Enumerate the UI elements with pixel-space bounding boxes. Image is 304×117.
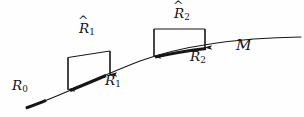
label-r1-subscript: 1 xyxy=(115,79,121,89)
manifold-diagram-svg xyxy=(0,0,304,117)
figure-canvas: R0 R1 R2 ^R1 ^R2 M xyxy=(0,0,304,117)
label-r0-base: R xyxy=(12,77,22,93)
label-rhat2: ^R2 xyxy=(174,7,190,22)
manifold-curve xyxy=(26,37,301,108)
label-r0: R0 xyxy=(12,79,28,94)
label-r2-base: R xyxy=(190,48,200,64)
label-r0-subscript: 0 xyxy=(22,84,28,94)
label-manifold: M xyxy=(236,38,252,53)
hat-accent-icon: ^ xyxy=(78,15,88,27)
bold-segment-r1 xyxy=(70,76,106,91)
label-r1-base: R xyxy=(105,72,115,88)
label-rhat2-subscript: 2 xyxy=(184,12,190,22)
label-manifold-base: M xyxy=(236,36,252,54)
label-r2-subscript: 2 xyxy=(200,55,206,65)
hat-accent-icon: ^ xyxy=(173,0,183,12)
label-rhat1: ^R1 xyxy=(79,22,95,37)
label-rhat2-hatwrap: ^R xyxy=(174,7,184,21)
bold-segment-r0 xyxy=(26,100,46,108)
label-rhat1-hatwrap: ^R xyxy=(79,22,89,36)
label-r2: R2 xyxy=(190,50,206,65)
label-rhat1-subscript: 1 xyxy=(89,27,95,37)
label-r1: R1 xyxy=(105,74,121,89)
